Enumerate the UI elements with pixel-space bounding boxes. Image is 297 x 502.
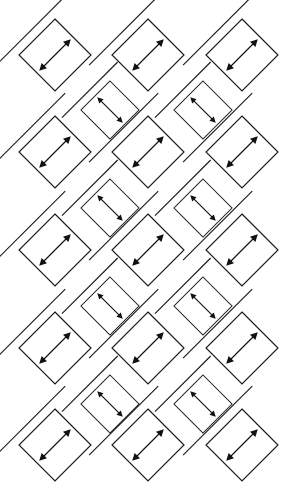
large-diamond [89,0,184,91]
arrow-shaft [135,335,161,361]
arrow-shaft [193,100,214,121]
arrow-shaft [229,42,255,68]
small-diamond [155,258,232,335]
large-diamond [183,0,278,91]
arrow-shaft [100,198,121,219]
arrow-shaft [100,100,121,121]
arrow-shaft [100,296,121,317]
small-diamond [62,356,139,433]
arrow-shaft [42,42,68,68]
arrow-shaft [42,139,68,165]
large-diamond [183,386,278,481]
small-diamond [155,160,232,237]
arrow-shaft [229,139,255,165]
arrow-shaft [100,394,121,415]
arrow-shaft [229,237,255,263]
lattice-pattern-svg [0,0,297,502]
small-diamond [62,258,139,335]
arrow-shaft [135,42,161,68]
small-diamond [155,356,232,433]
small-diamond [62,62,139,139]
large-diamond-layer [0,0,278,481]
small-diamond [155,62,232,139]
arrow-shaft [135,139,161,165]
offset-rule-line [0,0,65,65]
arrow-shaft [193,394,214,415]
arrow-shaft [135,237,161,263]
arrow-shaft [135,432,161,458]
arrow-shaft [193,198,214,219]
large-diamond [89,386,184,481]
arrow-shaft [229,335,255,361]
diagram-canvas [0,0,297,502]
arrow-shaft [229,432,255,458]
large-diamond [0,191,91,286]
arrow-shaft [42,432,68,458]
arrow-shaft [42,237,68,263]
small-diamond [62,160,139,237]
large-diamond [0,386,91,481]
large-diamond [0,0,91,91]
large-diamond [0,93,91,188]
large-diamond [0,289,91,384]
arrow-shaft [42,335,68,361]
arrow-shaft [193,296,214,317]
